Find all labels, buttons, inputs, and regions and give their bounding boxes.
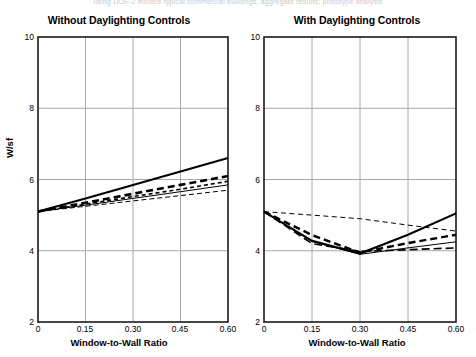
chart-panel-without-daylighting: Without Daylighting Controls W/sf 10 8 6… [0,0,238,357]
chart-panel-with-daylighting: With Daylighting Controls 10 8 6 4 2 0 0… [238,0,476,357]
gridlines-right [264,37,456,322]
plot-svg-left [0,0,238,357]
figure-container: using DOE-2 models typical commercial bu… [0,0,476,357]
plot-svg-right [238,0,476,357]
gridlines-left [38,37,228,322]
